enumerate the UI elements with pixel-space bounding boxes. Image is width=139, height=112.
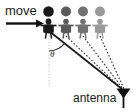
dashed-ray-group: [66, 36, 124, 89]
theta-label: θ: [50, 49, 55, 59]
move-label: move: [5, 3, 37, 18]
diagram-canvas: θ move: [0, 0, 139, 112]
scene-svg: θ move: [0, 0, 139, 112]
antenna-label: antenna: [73, 91, 117, 105]
person-icon-4: [92, 7, 107, 39]
antenna-icon: [117, 89, 131, 109]
dashed-ray-person-2: [66, 36, 122, 89]
right-arrow-icon: [6, 20, 44, 28]
person-icon-1: [41, 6, 57, 38]
person-icon-3: [75, 7, 90, 39]
person-icon-2: [58, 7, 73, 39]
